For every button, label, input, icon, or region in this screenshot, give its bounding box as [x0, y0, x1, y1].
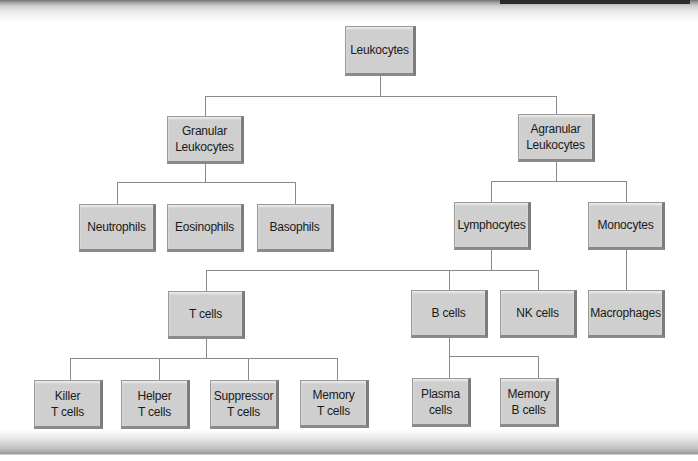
node-label: B cells — [432, 305, 466, 321]
connector — [491, 250, 492, 270]
connector — [449, 356, 450, 378]
node-monocytes: Monocytes — [588, 202, 665, 250]
connector — [449, 356, 539, 357]
node-label: Agranular — [530, 121, 580, 137]
node-eosinophils: Eosinophils — [167, 204, 244, 252]
node-lymphocytes: Lymphocytes — [454, 202, 531, 250]
connector — [248, 358, 249, 380]
node-label: B cells — [512, 402, 546, 418]
node-label: Leukocytes — [350, 42, 409, 58]
connector — [449, 270, 450, 290]
node-label: Suppressor — [214, 388, 273, 404]
node-label: Monocytes — [597, 217, 653, 233]
connector — [70, 358, 71, 380]
connector — [117, 182, 118, 204]
connector — [337, 358, 338, 380]
node-label: cells — [429, 402, 452, 418]
node-granular-leukocytes: Granular Leukocytes — [167, 116, 244, 164]
node-label: Lymphocytes — [457, 217, 525, 233]
node-label: Leukocytes — [526, 137, 585, 153]
top-page-edge — [0, 0, 698, 22]
node-agranular-leukocytes: Agranular Leukocytes — [518, 114, 595, 162]
node-label: Neutrophils — [87, 219, 146, 235]
node-label: Leukocytes — [175, 139, 234, 155]
bottom-page-edge — [0, 430, 698, 461]
connector — [449, 338, 450, 356]
node-nk-cells: NK cells — [500, 290, 577, 338]
connector — [626, 181, 627, 202]
connector — [491, 181, 492, 202]
node-memory-b-cells: Memory B cells — [500, 378, 559, 427]
connector — [117, 182, 295, 183]
node-label: NK cells — [516, 305, 558, 321]
header-tab-decoration — [500, 0, 690, 4]
node-label: Plasma — [421, 386, 460, 402]
connector — [556, 162, 557, 181]
node-leukocytes: Leukocytes — [345, 26, 416, 76]
node-label: T cells — [189, 306, 222, 322]
node-basophils: Basophils — [257, 204, 334, 252]
node-killer-t-cells: Killer T cells — [34, 380, 103, 429]
node-label: Killer — [55, 388, 80, 404]
node-label: Basophils — [269, 219, 319, 235]
node-plasma-cells: Plasma cells — [412, 378, 471, 427]
connector — [205, 96, 557, 97]
node-label: Helper — [137, 388, 171, 404]
connector — [70, 358, 338, 359]
node-memory-t-cells: Memory T cells — [300, 380, 369, 428]
node-label: Memory — [507, 386, 549, 402]
node-neutrophils: Neutrophils — [79, 204, 156, 252]
connector — [159, 358, 160, 380]
connector — [205, 163, 206, 182]
connector — [538, 270, 539, 290]
node-label: Macrophages — [590, 305, 661, 321]
node-label: T cells — [138, 404, 171, 420]
node-label: T cells — [51, 404, 84, 420]
connector — [206, 270, 207, 291]
node-suppressor-t-cells: Suppressor T cells — [210, 380, 279, 429]
connector — [205, 96, 206, 116]
connector — [295, 182, 296, 204]
node-helper-t-cells: Helper T cells — [121, 380, 190, 429]
node-label: T cells — [227, 404, 260, 420]
node-label: Memory — [312, 387, 354, 403]
node-macrophages: Macrophages — [588, 290, 665, 338]
node-t-cells: T cells — [168, 291, 245, 339]
node-b-cells: B cells — [411, 290, 488, 338]
connector — [491, 181, 627, 182]
node-label: T cells — [317, 403, 350, 419]
node-label: Eosinophils — [175, 219, 234, 235]
connector — [556, 96, 557, 114]
connector — [206, 270, 539, 271]
connector — [538, 356, 539, 378]
connector — [626, 250, 627, 290]
connector — [206, 339, 207, 358]
connector — [380, 76, 381, 96]
node-label: Granular — [182, 123, 227, 139]
